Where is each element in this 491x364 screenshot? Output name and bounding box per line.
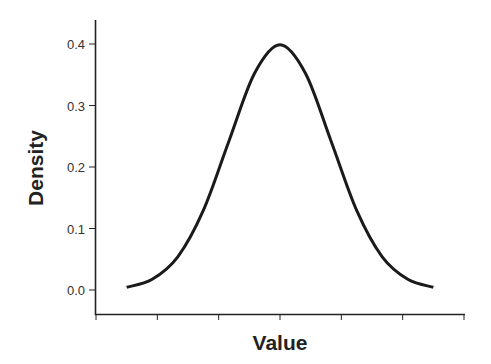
y-axis: 0.00.10.20.30.4 [67, 20, 96, 315]
y-tick-label: 0.0 [67, 283, 85, 298]
density-curve [127, 45, 434, 288]
x-axis-title: Value [253, 331, 308, 354]
y-tick-label: 0.4 [67, 37, 85, 52]
x-axis [95, 314, 465, 320]
y-tick-label: 0.1 [67, 222, 85, 237]
y-tick-label: 0.3 [67, 99, 85, 114]
density-chart: 0.00.10.20.30.4 Value Density [0, 0, 491, 364]
y-tick-label: 0.2 [67, 160, 85, 175]
y-axis-title: Density [24, 130, 47, 206]
